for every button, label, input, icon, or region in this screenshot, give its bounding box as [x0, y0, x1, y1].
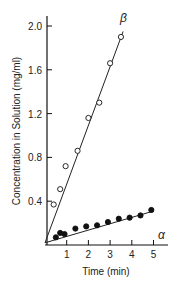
data-point [118, 34, 123, 39]
data-points [51, 34, 154, 240]
data-point [53, 235, 58, 240]
data-point [62, 231, 67, 236]
data-point [73, 226, 78, 231]
data-point [138, 213, 143, 218]
data-point [94, 223, 99, 228]
y-tick-label: 2.0 [28, 21, 42, 32]
data-point [127, 215, 132, 220]
series-label-beta: β [119, 11, 127, 25]
x-tick-label: 4 [129, 249, 135, 260]
data-point [51, 202, 56, 207]
data-point [58, 187, 63, 192]
fit-lines [45, 31, 154, 242]
data-point [97, 100, 102, 105]
data-point [63, 164, 68, 169]
series-label-alpha: α [158, 228, 166, 242]
data-point [149, 207, 154, 212]
data-point [86, 115, 91, 120]
y-tick-label: 1.6 [28, 65, 42, 76]
chart: 0.40.81.21.62.0 12345 Time (min) Concent… [0, 0, 180, 290]
y-tick-label: 0.8 [28, 152, 42, 163]
y-tick-label: 1.2 [28, 109, 42, 120]
y-tick-label: 0.4 [28, 196, 42, 207]
data-point [105, 219, 110, 224]
x-tick-label: 3 [107, 249, 113, 260]
x-tick-label: 5 [151, 249, 157, 260]
x-axis-label: Time (min) [82, 266, 129, 277]
x-ticks: 12345 [64, 240, 157, 260]
data-point [84, 224, 89, 229]
y-axis-label: Concentration in Solution (mg/ml) [11, 57, 22, 205]
x-tick-label: 1 [64, 249, 70, 260]
y-ticks: 0.40.81.21.62.0 [28, 21, 52, 207]
data-point [116, 216, 121, 221]
data-point [108, 61, 113, 66]
x-tick-label: 2 [86, 249, 92, 260]
data-point [75, 148, 80, 153]
